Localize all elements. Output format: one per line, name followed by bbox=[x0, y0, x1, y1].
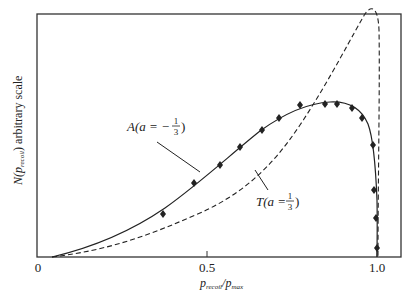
curve-A-solid bbox=[52, 102, 377, 257]
annotation-A: A(a = − 1 3 ) bbox=[126, 116, 185, 137]
x-tick-label-05: 0.5 bbox=[199, 260, 215, 275]
data-points bbox=[160, 100, 380, 252]
svg-text:3: 3 bbox=[174, 127, 179, 137]
arrow-T bbox=[255, 170, 268, 190]
svg-text:3: 3 bbox=[288, 202, 293, 212]
svg-text:): ) bbox=[295, 194, 299, 209]
plot-frame bbox=[37, 14, 401, 257]
svg-text:1: 1 bbox=[174, 116, 179, 126]
arrow-A bbox=[157, 142, 200, 172]
svg-text:A(a = −: A(a = − bbox=[126, 119, 170, 134]
svg-text:1: 1 bbox=[288, 191, 293, 201]
x-tick-label-0: 0 bbox=[35, 260, 42, 275]
annotation-T: T(a = 1 3 ) bbox=[256, 191, 299, 212]
svg-text:): ) bbox=[181, 119, 185, 134]
curve-T-dashed bbox=[52, 9, 379, 257]
chart: A(a = − 1 3 ) T(a = 1 3 ) 0 0.5 1.0 prec… bbox=[0, 0, 415, 299]
x-tick-label-10: 1.0 bbox=[369, 260, 385, 275]
x-axis-label: precoil/pmax bbox=[199, 276, 244, 291]
y-axis-label: N(precoil) arbitrary scale bbox=[11, 76, 26, 186]
svg-text:T(a =: T(a = bbox=[256, 194, 286, 209]
